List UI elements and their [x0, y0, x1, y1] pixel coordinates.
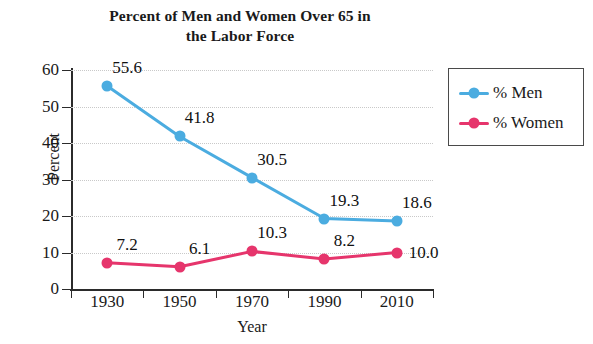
- legend: % Men % Women: [448, 68, 584, 146]
- data-point-marker: [247, 246, 258, 257]
- data-point-label: 55.6: [112, 58, 142, 78]
- data-point-label: 8.2: [334, 231, 355, 251]
- x-axis-tick-label: 1950: [163, 292, 197, 312]
- x-axis-tick-label: 1990: [307, 292, 341, 312]
- data-point-marker: [319, 254, 330, 265]
- x-axis-line: [70, 289, 434, 291]
- gridline: [71, 107, 433, 108]
- y-axis-tick-label: 30: [42, 170, 59, 190]
- data-point-marker: [391, 247, 402, 258]
- gridline: [71, 143, 433, 144]
- data-point-marker: [102, 257, 113, 268]
- chart-title-line-2: the Labor Force: [40, 26, 440, 46]
- data-point-marker: [174, 131, 185, 142]
- data-point-marker: [102, 81, 113, 92]
- data-point-label: 10.0: [409, 243, 439, 263]
- y-axis-tick-label: 10: [42, 243, 59, 263]
- chart-title-line-1: Percent of Men and Women Over 65 in: [40, 6, 440, 26]
- x-axis-tick: [433, 289, 434, 298]
- data-point-label: 18.6: [402, 193, 432, 213]
- data-point-marker: [247, 172, 258, 183]
- x-axis-tick-label: 2010: [380, 292, 414, 312]
- legend-line-marker-icon: [459, 86, 489, 100]
- data-point-label: 19.3: [330, 191, 360, 211]
- chart-figure: Percent of Men and Women Over 65 in the …: [0, 0, 593, 344]
- gridline: [71, 216, 433, 217]
- data-point-label: 7.2: [117, 235, 138, 255]
- y-axis-tick: [62, 107, 71, 108]
- y-axis-tick: [62, 143, 71, 144]
- legend-item-women[interactable]: % Women: [459, 108, 583, 138]
- data-point-marker: [391, 216, 402, 227]
- y-axis-tick: [62, 216, 71, 217]
- data-point-label: 30.5: [257, 150, 287, 170]
- legend-label-men: % Men: [493, 83, 543, 103]
- x-axis-title: Year: [71, 318, 433, 336]
- y-axis-tick: [62, 289, 71, 290]
- x-axis-tick-label: 1970: [235, 292, 269, 312]
- y-axis-tick: [62, 180, 71, 181]
- y-axis-tick-label: 20: [42, 206, 59, 226]
- y-axis-tick-label: 40: [42, 133, 59, 153]
- plot-area: 0102030405060 55.641.830.519.318.67.26.1…: [71, 70, 433, 289]
- data-point-label: 10.3: [257, 223, 287, 243]
- y-axis-tick: [62, 253, 71, 254]
- x-axis-tick: [143, 289, 144, 298]
- y-axis-tick-label: 60: [42, 60, 59, 80]
- y-axis-tick-label: 0: [51, 279, 60, 299]
- x-axis-tick-label: 1930: [90, 292, 124, 312]
- chart-title: Percent of Men and Women Over 65 in the …: [40, 6, 440, 47]
- y-axis-tick-label: 50: [42, 97, 59, 117]
- data-point-label: 6.1: [189, 239, 210, 259]
- data-point-marker: [174, 261, 185, 272]
- legend-label-women: % Women: [493, 113, 564, 133]
- data-point-marker: [319, 213, 330, 224]
- x-axis-tick: [288, 289, 289, 298]
- data-point-label: 41.8: [185, 108, 215, 128]
- x-axis-tick: [71, 289, 72, 298]
- legend-line-marker-icon: [459, 116, 489, 130]
- x-axis-tick: [361, 289, 362, 298]
- legend-item-men[interactable]: % Men: [459, 78, 583, 108]
- x-axis-tick: [216, 289, 217, 298]
- y-axis-tick: [62, 70, 71, 71]
